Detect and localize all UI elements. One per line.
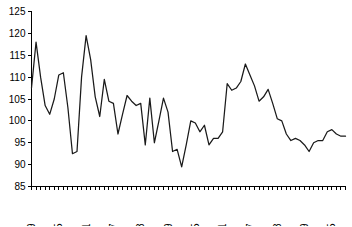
- x-tick-label: 1979: [163, 223, 174, 226]
- y-tick-label: 105: [9, 94, 26, 105]
- x-tick-label: 1985: [190, 223, 201, 226]
- x-tick-label: 1991: [217, 223, 228, 226]
- data-series-group: [32, 36, 346, 167]
- y-tick-label: 125: [9, 6, 26, 17]
- y-tick-label: 90: [14, 159, 26, 170]
- y-axis: 859095100105110115120125: [9, 6, 32, 192]
- x-tick-label: 1955: [53, 223, 64, 226]
- x-tick-label: 1967: [108, 223, 119, 226]
- y-tick-label: 115: [10, 50, 26, 61]
- line-chart: 859095100105110115120125 194919551961196…: [0, 0, 352, 226]
- x-tick-label: 2003: [272, 223, 283, 226]
- y-tick-label: 85: [14, 181, 26, 192]
- y-tick-label: 120: [9, 28, 26, 39]
- x-tick-label: 2015: [326, 223, 337, 226]
- x-tick-label: 1961: [81, 223, 92, 226]
- y-tick-label: 95: [14, 137, 26, 148]
- x-axis: 1949195519611967197319791985199119972003…: [26, 187, 345, 227]
- y-tick-label: 100: [9, 115, 26, 126]
- x-tick-label: 1949: [26, 223, 37, 226]
- x-tick-label: 1997: [245, 223, 256, 226]
- series-line: [32, 36, 346, 167]
- chart-canvas: 859095100105110115120125 194919551961196…: [0, 0, 352, 226]
- y-tick-label: 110: [10, 72, 26, 83]
- x-tick-label: 2009: [299, 223, 310, 226]
- x-tick-label: 1973: [135, 223, 146, 226]
